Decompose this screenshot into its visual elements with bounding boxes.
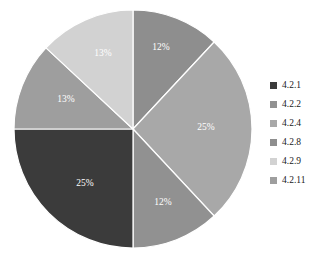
legend-item-label: 4.2.4 bbox=[282, 119, 301, 129]
legend-item-4-2-1[interactable]: 4.2.1 bbox=[270, 76, 329, 95]
pie-slice-value-label: 12% bbox=[152, 42, 170, 52]
chart-legend: 4.2.14.2.24.2.44.2.84.2.94.2.11 bbox=[270, 76, 329, 190]
legend-item-4-2-8[interactable]: 4.2.8 bbox=[270, 133, 329, 152]
pie-slice-value-label: 25% bbox=[197, 122, 215, 132]
legend-swatch-icon bbox=[270, 82, 277, 89]
legend-swatch-icon bbox=[270, 101, 277, 108]
pie-slice-value-label: 13% bbox=[57, 94, 75, 104]
legend-item-label: 4.2.8 bbox=[282, 138, 301, 148]
pie-chart-figure: 12%25%12%25%13%13% 4.2.14.2.24.2.44.2.84… bbox=[0, 0, 329, 261]
legend-item-label: 4.2.1 bbox=[282, 81, 301, 91]
legend-item-label: 4.2.2 bbox=[282, 100, 301, 110]
pie-slice-4-2-1[interactable] bbox=[14, 129, 133, 248]
legend-swatch-icon bbox=[270, 158, 277, 165]
pie-slice-value-label: 13% bbox=[94, 48, 112, 58]
legend-item-4-2-11[interactable]: 4.2.11 bbox=[270, 171, 329, 190]
legend-item-label: 4.2.9 bbox=[282, 157, 301, 167]
legend-item-4-2-2[interactable]: 4.2.2 bbox=[270, 95, 329, 114]
legend-swatch-icon bbox=[270, 120, 277, 127]
pie-plot-area: 12%25%12%25%13%13% bbox=[0, 0, 258, 261]
pie-slice-value-label: 25% bbox=[76, 178, 94, 188]
pie-svg: 12%25%12%25%13%13% bbox=[0, 0, 258, 261]
legend-item-4-2-4[interactable]: 4.2.4 bbox=[270, 114, 329, 133]
legend-item-label: 4.2.11 bbox=[282, 176, 305, 186]
pie-slices-group bbox=[14, 10, 252, 248]
legend-swatch-icon bbox=[270, 177, 277, 184]
legend-swatch-icon bbox=[270, 139, 277, 146]
pie-slice-value-label: 12% bbox=[154, 197, 172, 207]
legend-item-4-2-9[interactable]: 4.2.9 bbox=[270, 152, 329, 171]
